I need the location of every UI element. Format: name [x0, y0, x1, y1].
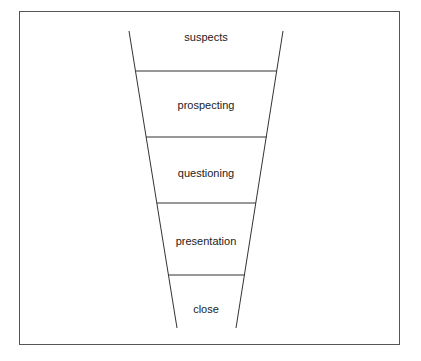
stage-close: close — [106, 303, 306, 315]
stage-prospecting: prospecting — [106, 99, 306, 111]
stage-questioning: questioning — [106, 167, 306, 179]
stage-suspects: suspects — [106, 31, 306, 43]
stage-presentation: presentation — [106, 235, 306, 247]
